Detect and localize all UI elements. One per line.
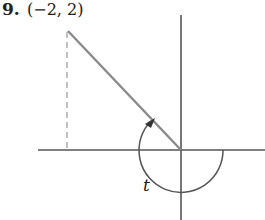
terminal-side (68, 31, 181, 150)
angle-label: t (143, 175, 150, 195)
diagram-canvas (0, 0, 265, 220)
unit-circle-diagram: 9. (−2, 2) t (0, 0, 265, 220)
